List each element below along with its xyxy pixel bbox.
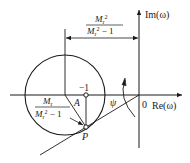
svg-text:Mr2: Mr2	[94, 14, 108, 25]
svg-text:Mr: Mr	[42, 96, 53, 107]
svg-text:Mr2 − 1: Mr2 − 1	[86, 26, 114, 37]
tangent-line	[40, 95, 139, 155]
radius-fraction: Mr Mr2 − 1	[34, 96, 70, 120]
minus-one-point	[84, 93, 88, 97]
origin-label: 0	[142, 99, 147, 110]
imag-axis-label: Im(ω)	[145, 9, 169, 21]
m-circle-diagram: Im(ω) Re(ω) 0 −1 P A ψ Mr2 Mr2 − 1 Mr Mr…	[0, 0, 190, 163]
point-p	[84, 125, 88, 129]
center-distance-fraction: Mr2 Mr2 − 1	[86, 14, 123, 37]
psi-arc-arrowhead	[122, 78, 126, 86]
point-p-label: P	[81, 131, 88, 142]
svg-text:Mr2 − 1: Mr2 − 1	[34, 109, 62, 120]
minus-one-label: −1	[79, 83, 89, 93]
point-a-label: A	[73, 98, 80, 108]
real-axis-label: Re(ω)	[152, 100, 176, 112]
psi-label: ψ	[110, 97, 117, 108]
